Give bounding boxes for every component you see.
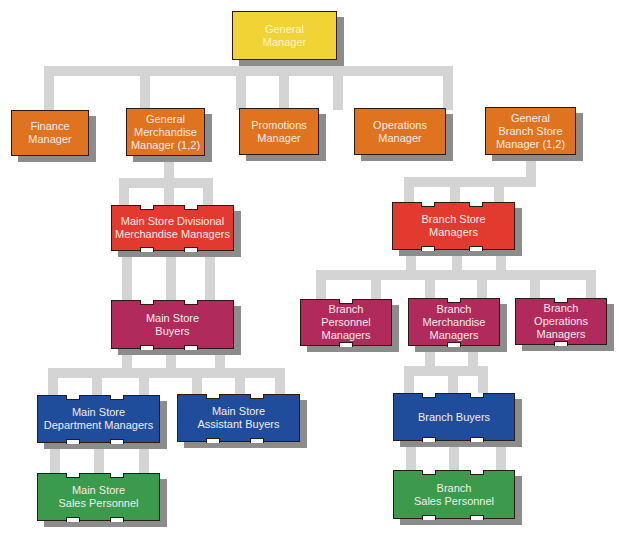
node-main-store-department-managers: Main Store Department Managers: [37, 395, 160, 443]
node-label: General Merchandise Manager (1,2): [131, 113, 200, 152]
node-label: Main Store Divisional Merchandise Manage…: [115, 215, 230, 241]
node-main-store-buyers: Main Store Buyers: [111, 300, 234, 349]
node-main-store-divisional-merchandise-managers: Main Store Divisional Merchandise Manage…: [111, 205, 234, 251]
node-general-merchandise-manager: General Merchandise Manager (1,2): [126, 108, 205, 156]
node-promotions-manager: Promotions Manager: [239, 108, 319, 155]
node-general-manager: General Manager: [232, 11, 337, 60]
node-label: General Branch Store Manager (1,2): [496, 112, 565, 151]
node-label: Branch Buyers: [418, 411, 490, 424]
node-general-branch-store-manager: General Branch Store Manager (1,2): [485, 107, 576, 155]
node-label: Branch Store Managers: [421, 213, 485, 239]
node-main-store-sales-personnel: Main Store Sales Personnel: [37, 473, 160, 521]
node-main-store-assistant-buyers: Main Store Assistant Buyers: [177, 394, 300, 442]
node-label: Finance Manager: [28, 120, 71, 146]
node-label: Operations Manager: [373, 119, 427, 145]
connector-lines: [0, 0, 619, 537]
node-label: Main Store Sales Personnel: [58, 484, 138, 510]
node-label: Branch Personnel Managers: [321, 303, 371, 342]
node-branch-personnel-managers: Branch Personnel Managers: [300, 299, 392, 346]
node-operations-manager: Operations Manager: [354, 108, 446, 155]
node-branch-operations-managers: Branch Operations Managers: [515, 298, 607, 345]
node-label: General Manager: [263, 23, 306, 49]
node-finance-manager: Finance Manager: [11, 110, 89, 156]
node-label: Main Store Department Managers: [44, 406, 153, 432]
node-branch-buyers: Branch Buyers: [393, 393, 515, 441]
node-branch-sales-personnel: Branch Sales Personnel: [393, 470, 515, 519]
node-label: Promotions Manager: [251, 119, 307, 145]
node-label: Main Store Assistant Buyers: [198, 405, 280, 431]
node-label: Branch Merchandise Managers: [423, 303, 486, 342]
node-label: Branch Operations Managers: [534, 302, 588, 341]
node-branch-store-managers: Branch Store Managers: [392, 202, 515, 250]
node-branch-merchandise-managers: Branch Merchandise Managers: [408, 298, 500, 346]
node-label: Branch Sales Personnel: [414, 482, 494, 508]
node-label: Main Store Buyers: [146, 312, 199, 338]
